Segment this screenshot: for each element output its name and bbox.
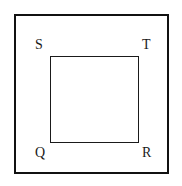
figure-canvas: S T Q R: [0, 0, 182, 186]
vertex-label-q: Q: [35, 146, 45, 160]
vertex-label-r: R: [142, 146, 151, 160]
inner-square-QRTS: [50, 56, 139, 143]
vertex-label-s: S: [35, 38, 43, 52]
vertex-label-t: T: [142, 38, 151, 52]
